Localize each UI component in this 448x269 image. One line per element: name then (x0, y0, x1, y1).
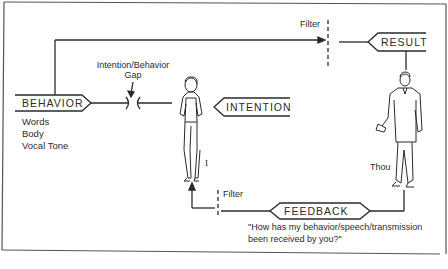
gap-label-line1: Intention/Behavior (88, 60, 178, 70)
filter-top-label: Filter (300, 19, 320, 29)
feedback-question: "How has my behavior/speech/transmission… (248, 222, 422, 245)
gap-label-line2: Gap (88, 70, 178, 80)
behavior-item-body: Body (22, 128, 68, 140)
other-label: Thou (370, 162, 391, 172)
arrow-down-icon (128, 91, 134, 97)
gap-label: Intention/Behavior Gap (88, 60, 178, 81)
filter-bottom-label: Filter (223, 189, 243, 199)
feedback-question-line2: been received by you?" (248, 234, 422, 246)
arrow-right-icon (318, 37, 325, 43)
result-label: RESULT (381, 36, 428, 48)
arrow-up-icon (189, 183, 195, 190)
behavior-item-vocal-tone: Vocal Tone (22, 140, 68, 152)
behavior-item-words: Words (22, 116, 68, 128)
feedback-question-line1: "How has my behavior/speech/transmission (248, 222, 422, 234)
woman-figure (180, 77, 202, 181)
intention-label: INTENTION (226, 101, 292, 113)
behavior-sub-items: Words Body Vocal Tone (22, 116, 68, 152)
self-label: I (205, 158, 208, 168)
feedback-label: FEEDBACK (284, 205, 349, 217)
behavior-label: BEHAVIOR (22, 97, 83, 109)
